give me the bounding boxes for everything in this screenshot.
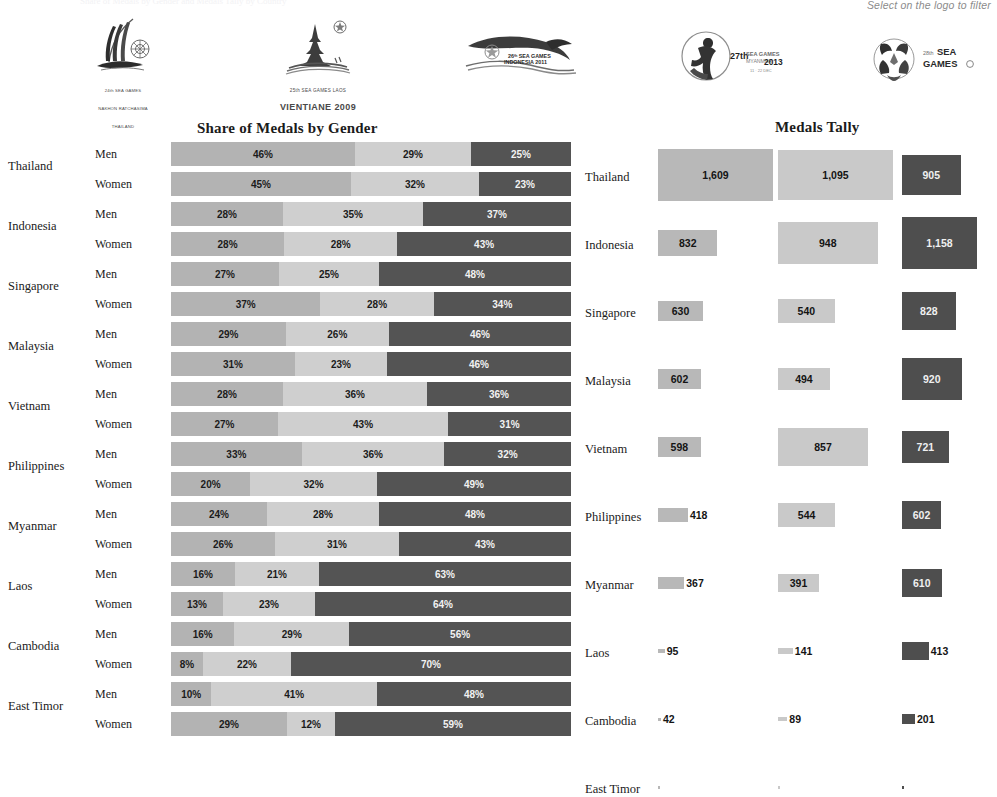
stacked-bar[interactable]: 27%43%31%	[171, 412, 571, 436]
bar-segment-silver[interactable]: 29%	[234, 622, 349, 646]
bar-segment-silver[interactable]: 12%	[287, 712, 335, 736]
tally-bar-bronze[interactable]: 413	[902, 642, 929, 661]
bar-segment-gold[interactable]: 37%	[171, 292, 320, 316]
tally-bar-gold[interactable]: 418	[658, 508, 688, 522]
bar-segment-silver[interactable]: 36%	[283, 382, 427, 406]
tally-bar-silver[interactable]: 544	[778, 503, 835, 527]
tally-bar-silver[interactable]: 89	[778, 717, 787, 721]
bar-segment-bronze[interactable]: 63%	[319, 562, 571, 586]
bar-segment-bronze[interactable]: 48%	[379, 502, 571, 526]
tally-bar-gold[interactable]: 95	[658, 649, 665, 652]
stacked-bar[interactable]: 16%21%63%	[171, 562, 571, 586]
bar-segment-silver[interactable]: 28%	[267, 502, 379, 526]
stacked-bar[interactable]: 29%12%59%	[171, 712, 571, 736]
tally-bar-bronze[interactable]: 201	[902, 714, 915, 723]
bar-segment-gold[interactable]: 16%	[171, 622, 234, 646]
bar-segment-gold[interactable]: 8%	[171, 652, 203, 676]
logo-sea-games-2011-indonesia[interactable]: 26ᵗʰ SEA GAMES INDONESIA 2011	[452, 32, 592, 80]
bar-segment-bronze[interactable]: 70%	[291, 652, 571, 676]
bar-segment-bronze[interactable]: 59%	[335, 712, 571, 736]
bar-segment-silver[interactable]: 43%	[278, 412, 448, 436]
stacked-bar[interactable]: 45%32%23%	[171, 172, 571, 196]
bar-segment-bronze[interactable]: 43%	[397, 232, 571, 256]
bar-segment-bronze[interactable]: 56%	[349, 622, 571, 646]
tally-bar-bronze[interactable]: 602	[902, 501, 941, 528]
bar-segment-gold[interactable]: 20%	[171, 472, 250, 496]
tally-bar-silver[interactable]: 141	[778, 648, 793, 654]
tally-bar-bronze[interactable]: 920	[902, 358, 962, 399]
tally-bar-silver[interactable]	[778, 786, 780, 789]
tally-bar-bronze[interactable]: 905	[902, 155, 961, 196]
tally-bar-gold[interactable]: 42	[658, 718, 661, 721]
tally-bar-silver[interactable]: 391	[778, 574, 819, 592]
bar-segment-gold[interactable]: 28%	[171, 202, 283, 226]
tally-bar-gold[interactable]: 598	[658, 437, 701, 456]
bar-segment-gold[interactable]: 27%	[171, 412, 278, 436]
tally-bar-bronze[interactable]	[902, 786, 904, 789]
bar-segment-gold[interactable]: 24%	[171, 502, 267, 526]
bar-segment-bronze[interactable]: 32%	[444, 442, 571, 466]
bar-segment-gold[interactable]: 26%	[171, 532, 275, 556]
bar-segment-bronze[interactable]: 46%	[389, 322, 571, 346]
bar-segment-bronze[interactable]: 37%	[423, 202, 571, 226]
bar-segment-silver[interactable]: 32%	[351, 172, 479, 196]
stacked-bar[interactable]: 46%29%25%	[171, 142, 571, 166]
bar-segment-bronze[interactable]: 34%	[434, 292, 571, 316]
bar-segment-bronze[interactable]: 25%	[471, 142, 571, 166]
bar-segment-silver[interactable]: 28%	[284, 232, 397, 256]
stacked-bar[interactable]: 10%41%48%	[171, 682, 571, 706]
bar-segment-bronze[interactable]: 48%	[379, 262, 571, 286]
bar-segment-gold[interactable]: 46%	[171, 142, 355, 166]
tally-bar-bronze[interactable]: 1,158	[902, 217, 977, 269]
tally-bar-bronze[interactable]: 828	[902, 292, 956, 329]
tally-bar-bronze[interactable]: 721	[902, 431, 949, 463]
bar-segment-bronze[interactable]: 23%	[479, 172, 571, 196]
stacked-bar[interactable]: 28%28%43%	[171, 232, 571, 256]
tally-bar-gold[interactable]	[658, 786, 660, 789]
bar-segment-silver[interactable]: 25%	[279, 262, 379, 286]
tally-bar-silver[interactable]: 948	[778, 222, 878, 265]
bar-segment-gold[interactable]: 45%	[171, 172, 351, 196]
bar-segment-bronze[interactable]: 36%	[427, 382, 571, 406]
bar-segment-bronze[interactable]: 46%	[387, 352, 571, 376]
bar-segment-silver[interactable]: 28%	[320, 292, 433, 316]
bar-segment-silver[interactable]: 26%	[286, 322, 389, 346]
bar-segment-gold[interactable]: 28%	[171, 232, 284, 256]
stacked-bar[interactable]: 20%32%49%	[171, 472, 571, 496]
bar-segment-gold[interactable]: 28%	[171, 382, 283, 406]
stacked-bar[interactable]: 16%29%56%	[171, 622, 571, 646]
tally-bar-silver[interactable]: 1,095	[778, 150, 893, 199]
stacked-bar[interactable]: 24%28%48%	[171, 502, 571, 526]
bar-segment-gold[interactable]: 31%	[171, 352, 295, 376]
stacked-bar[interactable]: 28%36%36%	[171, 382, 571, 406]
stacked-bar[interactable]: 33%36%32%	[171, 442, 571, 466]
tally-bar-silver[interactable]: 494	[778, 368, 830, 390]
stacked-bar[interactable]: 31%23%46%	[171, 352, 571, 376]
bar-segment-gold[interactable]: 16%	[171, 562, 235, 586]
bar-segment-gold[interactable]: 33%	[171, 442, 302, 466]
bar-segment-silver[interactable]: 22%	[203, 652, 291, 676]
bar-segment-bronze[interactable]: 49%	[377, 472, 571, 496]
tally-bar-gold[interactable]: 630	[658, 301, 703, 321]
tally-bar-gold[interactable]: 832	[658, 230, 717, 257]
bar-segment-bronze[interactable]: 48%	[377, 682, 571, 706]
bar-segment-gold[interactable]: 10%	[171, 682, 211, 706]
stacked-bar[interactable]: 13%23%64%	[171, 592, 571, 616]
bar-segment-bronze[interactable]: 64%	[315, 592, 571, 616]
bar-segment-silver[interactable]: 36%	[302, 442, 445, 466]
bar-segment-gold[interactable]: 27%	[171, 262, 279, 286]
logo-sea-games-2015-singapore[interactable]: 28th SEA GAMES	[858, 36, 993, 82]
tally-bar-silver[interactable]: 540	[778, 299, 835, 323]
tally-bar-silver[interactable]: 857	[778, 428, 868, 466]
bar-segment-silver[interactable]: 41%	[211, 682, 377, 706]
tally-bar-gold[interactable]: 602	[658, 369, 701, 388]
bar-segment-bronze[interactable]: 31%	[448, 412, 571, 436]
tally-bar-gold[interactable]: 1,609	[658, 149, 773, 201]
logo-sea-games-2013-myanmar[interactable]: 27th SEA GAMES MYANMAR 2013 11 · 22 DEC	[668, 30, 798, 82]
bar-segment-silver[interactable]: 23%	[223, 592, 315, 616]
stacked-bar[interactable]: 27%25%48%	[171, 262, 571, 286]
bar-segment-silver[interactable]: 21%	[235, 562, 319, 586]
tally-bar-bronze[interactable]: 610	[902, 569, 942, 596]
bar-segment-silver[interactable]: 31%	[275, 532, 399, 556]
bar-segment-gold[interactable]: 29%	[171, 322, 286, 346]
